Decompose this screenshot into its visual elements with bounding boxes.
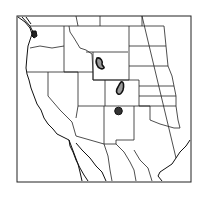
mexico-line-1 bbox=[104, 144, 112, 181]
mexico-line-2 bbox=[116, 144, 136, 181]
mexico-line-3 bbox=[134, 150, 152, 181]
wa-or-border bbox=[30, 46, 64, 48]
ca-nv-border bbox=[48, 72, 76, 136]
nv-ut-border bbox=[76, 72, 78, 118]
baja-coast bbox=[69, 140, 82, 181]
range-area-colorado bbox=[117, 82, 124, 94]
range-area-washington bbox=[32, 31, 37, 38]
pacific-coastline bbox=[18, 17, 88, 181]
meridian-line bbox=[142, 16, 176, 158]
range-map: Western United States and northern Mexic… bbox=[0, 0, 198, 201]
texas-panhandle bbox=[139, 106, 180, 128]
north-line-1 bbox=[76, 16, 78, 26]
range-area-wyoming bbox=[96, 58, 104, 69]
texas-gulf-coast bbox=[158, 140, 190, 181]
map-frame bbox=[17, 16, 191, 182]
utah-border bbox=[93, 72, 105, 106]
idaho-east-border bbox=[69, 26, 93, 72]
range-area-new-mexico bbox=[115, 107, 123, 115]
az-south-border bbox=[76, 136, 104, 144]
east-states-line bbox=[164, 26, 180, 128]
